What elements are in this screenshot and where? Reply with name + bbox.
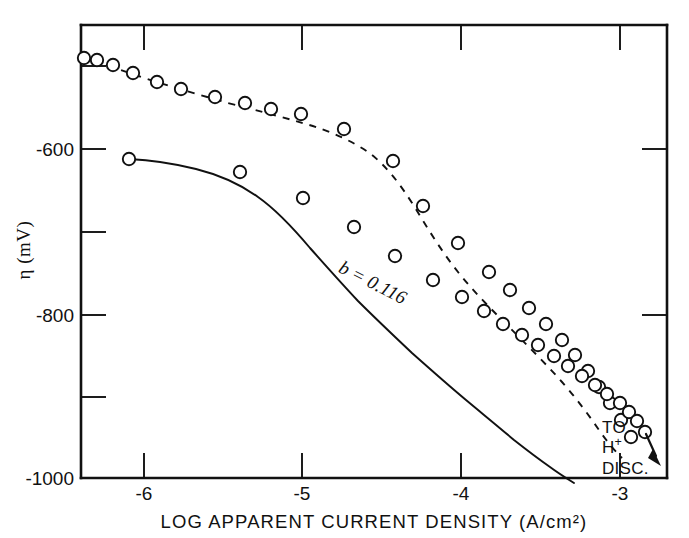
marker xyxy=(540,318,552,330)
tafel-slope-label: b = 0.116 xyxy=(336,256,411,308)
plot-frame xyxy=(81,25,667,478)
x-tick-label--6: -6 xyxy=(136,483,153,504)
marker xyxy=(209,91,221,103)
marker xyxy=(548,350,560,362)
marker xyxy=(589,379,601,391)
marker xyxy=(625,431,637,443)
marker xyxy=(532,339,544,351)
marker xyxy=(338,123,350,135)
y-axis-tick-labels: -600 -800 -1000 xyxy=(25,139,74,489)
x-tick-label--3: -3 xyxy=(612,483,629,504)
marker xyxy=(478,305,490,317)
y-axis-ticks xyxy=(81,66,667,397)
marker xyxy=(631,415,643,427)
marker xyxy=(456,291,468,303)
marker xyxy=(295,108,307,120)
marker xyxy=(497,318,509,330)
marker xyxy=(239,97,251,109)
y-axis-title: η (mV) xyxy=(13,221,35,280)
marker xyxy=(91,54,103,66)
marker xyxy=(483,266,495,278)
marker xyxy=(504,284,516,296)
marker xyxy=(516,329,528,341)
marker xyxy=(151,76,163,88)
y-tick-label--800: -800 xyxy=(36,305,74,326)
marker xyxy=(265,103,277,115)
marker xyxy=(556,334,568,346)
marker xyxy=(523,302,535,314)
x-axis-title: LOG APPARENT CURRENT DENSITY (A/cm²) xyxy=(161,511,588,532)
marker xyxy=(387,155,399,167)
y-tick-label--600: -600 xyxy=(36,139,74,160)
tafel-plot-chart: -6 -5 -4 -3 -600 -800 -1000 LOG APPARENT… xyxy=(0,0,689,538)
series-lower-branch-solid xyxy=(123,153,651,483)
marker xyxy=(107,59,119,71)
marker xyxy=(452,237,464,249)
marker xyxy=(639,426,651,438)
x-axis-tick-labels: -6 -5 -4 -3 xyxy=(136,483,629,504)
marker xyxy=(127,67,139,79)
marker xyxy=(562,360,574,372)
marker xyxy=(234,166,246,178)
marker xyxy=(348,221,360,233)
upper-branch-curve xyxy=(81,58,622,458)
marker xyxy=(417,200,429,212)
marker xyxy=(569,349,581,361)
figure-container: -6 -5 -4 -3 -600 -800 -1000 LOG APPARENT… xyxy=(0,0,689,538)
note-line-disc: DISC. xyxy=(602,459,649,478)
marker xyxy=(297,192,309,204)
marker xyxy=(389,250,401,262)
hydrogen-discharge-note: TO H+ DISC. xyxy=(602,418,661,478)
x-tick-label--4: -4 xyxy=(453,483,470,504)
y-tick-label--1000: -1000 xyxy=(25,468,74,489)
marker xyxy=(601,388,613,400)
x-tick-label--5: -5 xyxy=(294,483,311,504)
marker xyxy=(123,153,135,165)
marker xyxy=(78,52,90,64)
marker xyxy=(175,83,187,95)
marker xyxy=(576,370,588,382)
marker xyxy=(427,274,439,286)
series-upper-branch-dashed xyxy=(78,52,637,458)
